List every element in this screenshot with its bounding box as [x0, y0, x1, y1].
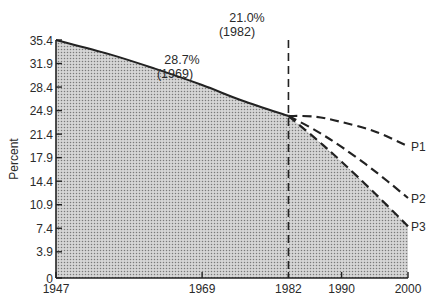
x-tick-label: 1947 — [43, 282, 70, 296]
shaded-region — [56, 40, 408, 278]
series-label-p1: P1 — [411, 140, 426, 154]
annotation-1982-percent: 21.0% — [229, 11, 264, 25]
annotation-1982-year: (1982) — [219, 25, 255, 39]
series-label-p2: P2 — [411, 192, 426, 206]
series-label-p3: P3 — [411, 220, 426, 234]
y-tick-label: 24.9 — [30, 104, 54, 118]
y-tick-label: 21.4 — [30, 128, 54, 142]
y-tick-label: 14.4 — [30, 175, 54, 189]
annotation-1969-percent: 28.7% — [164, 53, 199, 67]
x-tick-label: 1982 — [275, 282, 302, 296]
annotation-1969-year: (1969) — [157, 67, 193, 81]
x-tick-label: 1990 — [328, 282, 355, 296]
y-tick-label: 7.4 — [36, 222, 53, 236]
y-tick-label: 28.4 — [30, 81, 54, 95]
y-tick-label: 31.9 — [30, 57, 54, 71]
y-tick-label: 3.9 — [36, 245, 53, 259]
y-tick-label: 17.9 — [30, 151, 54, 165]
y-tick-label: 35.4 — [30, 34, 54, 48]
y-axis-label: Percent — [7, 138, 21, 180]
chart: 03.97.410.914.417.921.424.928.431.935.41… — [0, 0, 436, 304]
x-tick-label: 2000 — [395, 282, 422, 296]
shaded-area — [56, 40, 408, 278]
x-tick-label: 1969 — [189, 282, 216, 296]
y-tick-label: 10.9 — [30, 198, 54, 212]
